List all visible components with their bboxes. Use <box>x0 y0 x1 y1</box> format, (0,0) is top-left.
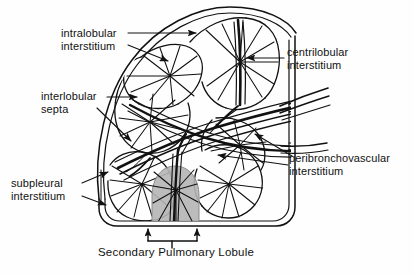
label-peribroncho-line1: peribronchovascular <box>289 152 390 165</box>
label-interlobular-line1: interlobular <box>41 90 97 103</box>
figure-caption: Secondary Pulmonary Lobule <box>98 246 254 258</box>
label-subpleural-interstitium: subpleural interstitium <box>11 177 65 202</box>
intralobular-septa-upper-left <box>127 46 201 105</box>
hilar-vessels <box>280 88 330 153</box>
label-intralobular-interstitium: intralobular interstitium <box>61 27 117 52</box>
diagram-strokes <box>82 7 330 248</box>
label-centrilobular-line1: centrilobular <box>287 46 348 59</box>
intralobular-septa-upper-right <box>206 20 278 104</box>
label-centrilobular-interstitium: centrilobular interstitium <box>287 46 348 71</box>
label-intralobular-line1: intralobular <box>61 27 117 40</box>
lung-anatomy-figure: intralobular interstitium centrilobular … <box>0 0 414 275</box>
label-interlobular-septa: interlobular septa <box>41 90 97 115</box>
label-peribroncho-line2: interstitium <box>289 165 390 178</box>
leader-peribroncho-a <box>255 134 292 156</box>
label-intralobular-line2: interstitium <box>61 40 117 53</box>
leader-subpleural-b <box>82 196 106 205</box>
label-interlobular-line2: septa <box>41 103 97 116</box>
label-centrilobular-line2: interstitium <box>287 59 348 72</box>
label-subpleural-line2: interstitium <box>11 190 65 203</box>
leader-interlobular-b <box>97 108 131 141</box>
label-peribronchovascular-interstitium: peribronchovascular interstitium <box>289 152 390 177</box>
label-subpleural-line1: subpleural <box>11 177 65 190</box>
